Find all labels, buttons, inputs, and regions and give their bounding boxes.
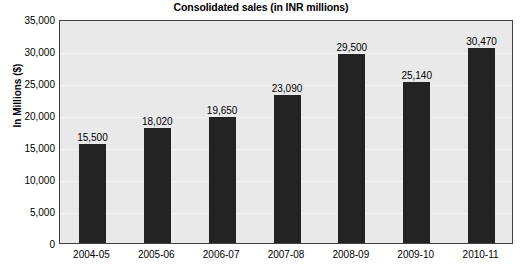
bar[interactable] bbox=[403, 82, 430, 243]
x-axis-tick-label: 2010-11 bbox=[463, 249, 499, 260]
y-axis-tick-label: 25,000 bbox=[3, 79, 55, 90]
bar-value-label: 29,500 bbox=[337, 42, 368, 53]
bar-chart: Consolidated sales (in INR millions) In … bbox=[0, 0, 522, 270]
y-axis-tick-label: 15,000 bbox=[3, 143, 55, 154]
bar-value-label: 23,090 bbox=[272, 83, 303, 94]
x-axis-tick-label: 2009-10 bbox=[397, 249, 434, 260]
x-axis-tick-label: 2004-05 bbox=[73, 249, 110, 260]
bar[interactable] bbox=[468, 48, 495, 243]
bar-value-label: 25,140 bbox=[401, 70, 432, 81]
x-axis-tick-label: 2005-06 bbox=[138, 249, 175, 260]
x-axis-tick-labels: 2004-052005-062006-072007-082008-092009-… bbox=[59, 249, 513, 267]
y-axis-tick-label: 5,000 bbox=[3, 207, 55, 218]
y-axis-tick-labels: 05,00010,00015,00020,00025,00030,00035,0… bbox=[0, 20, 55, 244]
bar-value-label: 19,650 bbox=[207, 105, 238, 116]
x-axis-tick-label: 2007-08 bbox=[268, 249, 305, 260]
bar-value-label: 30,470 bbox=[466, 36, 497, 47]
bar[interactable] bbox=[144, 128, 171, 243]
x-axis-tick-label: 2006-07 bbox=[203, 249, 240, 260]
y-axis-tick-label: 10,000 bbox=[3, 175, 55, 186]
bar-value-label: 15,500 bbox=[77, 132, 108, 143]
bar-value-label: 18,020 bbox=[142, 116, 173, 127]
plot-inner: 15,50018,02019,65023,09029,50025,14030,4… bbox=[60, 21, 512, 243]
bar[interactable] bbox=[274, 95, 301, 243]
bar[interactable] bbox=[209, 117, 236, 243]
y-axis-tick-label: 35,000 bbox=[3, 15, 55, 26]
y-axis-tick-label: 0 bbox=[3, 239, 55, 250]
bar[interactable] bbox=[79, 144, 106, 243]
x-axis-tick-label: 2008-09 bbox=[332, 249, 369, 260]
chart-title: Consolidated sales (in INR millions) bbox=[0, 1, 522, 13]
gridline bbox=[60, 53, 512, 54]
y-axis-tick-label: 30,000 bbox=[3, 47, 55, 58]
plot-area: 15,50018,02019,65023,09029,50025,14030,4… bbox=[59, 20, 513, 244]
bar[interactable] bbox=[338, 54, 365, 243]
y-axis-tick-label: 20,000 bbox=[3, 111, 55, 122]
